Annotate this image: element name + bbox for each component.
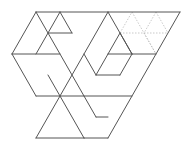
solid-edge [108, 33, 120, 54]
dotted-edge [144, 33, 156, 54]
solid-edge [120, 54, 132, 75]
dotted-edge [144, 12, 156, 33]
triangle-dissection-diagram [0, 0, 188, 147]
dotted-edge [120, 12, 132, 33]
solid-edge [60, 12, 72, 33]
solid-edge [12, 12, 36, 54]
solid-edge [84, 54, 96, 75]
solid-edges [12, 12, 180, 138]
solid-edge [120, 33, 132, 54]
solid-edge [12, 54, 36, 96]
dotted-edge [156, 12, 168, 33]
dotted-edges [120, 12, 168, 54]
solid-edge [96, 54, 108, 75]
solid-edge [48, 75, 60, 96]
solid-edge [84, 96, 96, 117]
solid-edge [60, 96, 84, 138]
solid-edge [36, 96, 60, 138]
